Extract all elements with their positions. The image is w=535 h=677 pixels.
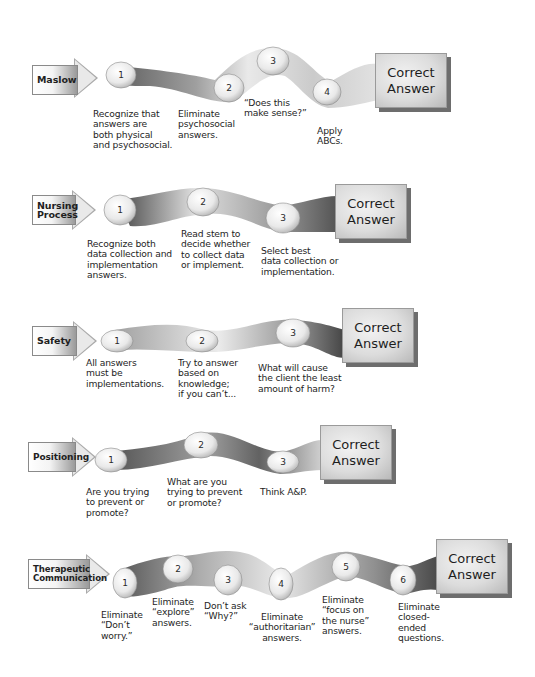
therapeutic-step-5-text: Eliminate “focus on the nurse” answers. [322,595,369,637]
test-strategy-diagram: 1 2 3 4 1 2 3 1 2 3 1 2 3 1 2 3 4 5 6 Ma… [0,0,535,677]
therapeutic-step-1-text: Eliminate “Don’t worry.” [101,610,143,641]
row-therapeutic-communication: Therapeutic Communication Correct Answer… [0,0,535,677]
category-label-therapeutic-communication: Therapeutic Communication [28,559,90,589]
correct-answer-box-therapeutic-communication: Correct Answer [436,539,508,594]
therapeutic-step-2-text: Eliminate “explore” answers. [152,597,194,628]
correct-answer-line2: Answer [448,567,496,583]
therapeutic-step-4-text: Eliminate “authoritarian” answers. [246,612,318,643]
correct-answer-line1: Correct [448,551,495,567]
therapeutic-step-6-text: Eliminate closed- ended questions. [398,602,444,644]
therapeutic-step-3-text: Don’t ask “Why?” [204,601,246,622]
